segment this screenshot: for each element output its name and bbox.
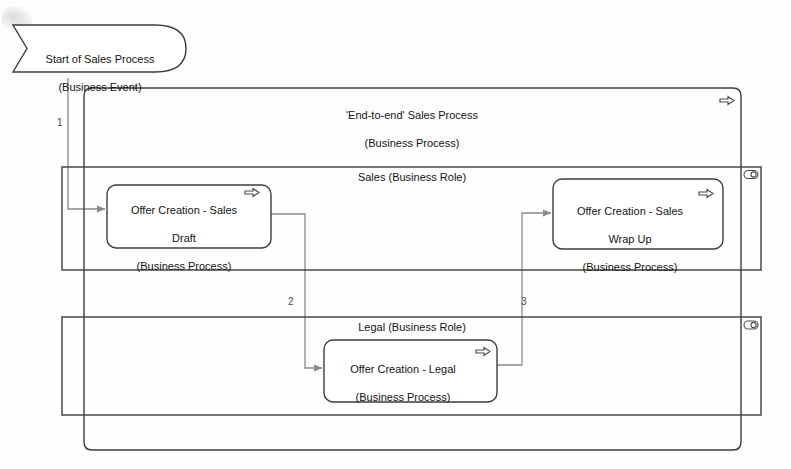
process-label-sales-draft: Offer Creation - Sales Draft (Business P… [110, 189, 258, 287]
process-sales-draft-line1: Offer Creation - Sales [110, 203, 258, 217]
process-legal-line1: Offer Creation - Legal [327, 362, 479, 376]
connector-1-number: 1 [57, 117, 63, 128]
business-role-icon [744, 171, 758, 179]
process-sales-draft-line2: Draft [110, 231, 258, 245]
process-legal-line2: (Business Process) [327, 390, 479, 404]
process-sales-wrap-up-line2: Wrap Up [556, 232, 704, 246]
legal-role-label: Legal (Business Role) [312, 320, 512, 334]
end-to-end-process-label: 'End-to-end' Sales Process (Business Pro… [262, 94, 562, 164]
connector-3-number: 3 [521, 296, 527, 307]
process-label-sales-wrap-up: Offer Creation - Sales Wrap Up (Business… [556, 190, 704, 288]
start-event-name: Start of Sales Process [25, 52, 175, 66]
process-sales-wrap-up-line1: Offer Creation - Sales [556, 204, 704, 218]
end-to-end-process-name: 'End-to-end' Sales Process [262, 108, 562, 122]
process-label-legal: Offer Creation - Legal (Business Process… [327, 348, 479, 418]
end-to-end-process-type: (Business Process) [262, 136, 562, 150]
diagram-canvas: Start of Sales Process (Business Event) … [0, 0, 791, 469]
process-sales-wrap-up-line3: (Business Process) [556, 260, 704, 274]
start-event-label: Start of Sales Process (Business Event) [25, 38, 175, 108]
business-role-icon [744, 321, 758, 329]
sales-role-label: Sales (Business Role) [312, 170, 512, 184]
connector-2-number: 2 [288, 296, 294, 307]
start-event-type: (Business Event) [25, 80, 175, 94]
process-sales-draft-line3: (Business Process) [110, 259, 258, 273]
